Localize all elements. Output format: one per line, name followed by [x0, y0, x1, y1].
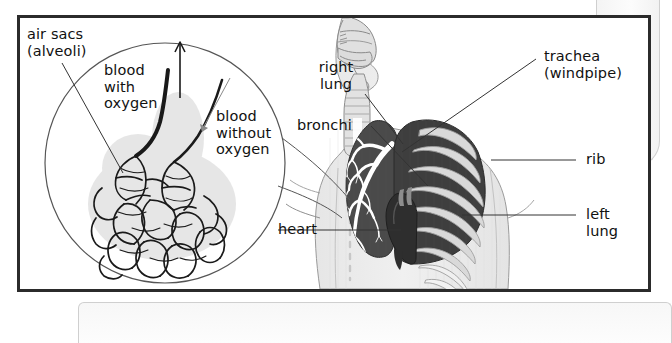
label-rib: rib	[586, 151, 606, 168]
label-bronchi: bronchi	[297, 117, 352, 134]
label-right-lung: right lung	[307, 59, 365, 92]
figure-frame: air sacs (alveoli) blood with oxygen blo…	[17, 15, 651, 292]
label-blood-with-oxygen: blood with oxygen	[104, 62, 158, 112]
label-left-lung: left lung	[586, 206, 618, 239]
background-panel-bottom	[78, 302, 672, 343]
alveoli-inset-circle	[45, 42, 350, 283]
label-blood-without-oxygen: blood without oxygen	[216, 108, 271, 158]
label-air-sacs: air sacs (alveoli)	[27, 26, 87, 59]
label-heart: heart	[278, 221, 317, 238]
label-trachea: trachea (windpipe)	[544, 48, 622, 81]
